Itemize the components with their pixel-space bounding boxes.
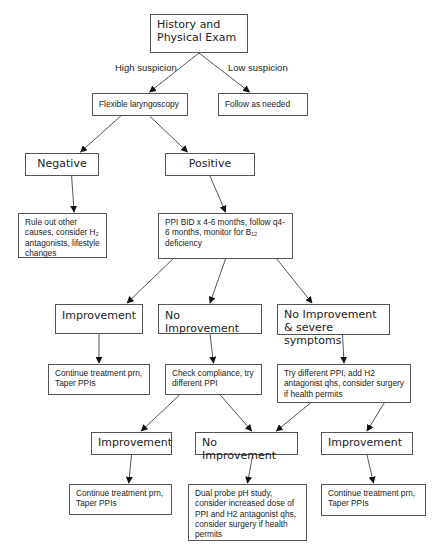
arrow-ppi-to-improvement-1 xyxy=(127,259,173,303)
node-history-physical-exam: History and Physical Exam xyxy=(150,14,248,53)
node-improvement: Improvement xyxy=(321,432,413,455)
edges-layer xyxy=(0,0,444,550)
arrow-laryngoscopy-to-positive xyxy=(150,116,188,152)
arrow-try-different-to-improvement-3 xyxy=(367,403,384,431)
arrow-no-improvement-severe-to-try-different xyxy=(343,335,344,363)
node-no-improvement: No Improvement xyxy=(158,304,262,334)
node-rule-out-other-causes: Rule out other causes, consider H₂ antag… xyxy=(18,213,107,258)
arrow-no-improvement-1-to-check-compliance xyxy=(210,334,214,363)
node-no-improvement-severe: No Improvement & severe symptoms xyxy=(277,304,390,335)
node-improvement: Improvement xyxy=(55,304,143,334)
arrow-ppi-to-no-improvement-severe xyxy=(277,259,312,303)
node-positive: Positive xyxy=(165,153,255,176)
arrow-ppi-to-no-improvement-1 xyxy=(210,259,226,303)
arrow-laryngoscopy-to-negative xyxy=(81,116,121,152)
arrow-check-compliance-to-improvement-2 xyxy=(141,395,179,431)
node-continue-treatment: Continue treatment prn, Taper PPIs xyxy=(69,484,172,515)
node-no-improvement: No Improvement xyxy=(195,432,298,455)
node-flexible-laryngoscopy: Flexible laryngoscopy xyxy=(92,93,188,116)
node-dual-probe-ph-study: Dual probe pH study, consider increased … xyxy=(188,484,307,541)
edge-label-low-suspicion: Low suspicion xyxy=(228,62,288,73)
node-follow-as-needed: Follow as needed xyxy=(218,93,308,116)
arrow-improvement-2-to-continue-2 xyxy=(129,455,132,483)
arrow-improvement-3-to-continue-3 xyxy=(367,455,374,483)
arrow-try-different-to-no-improvement-2 xyxy=(276,403,310,431)
node-improvement: Improvement xyxy=(91,432,172,455)
node-continue-treatment: Continue treatment prn, Taper PPIs xyxy=(48,364,150,395)
node-ppi-bid: PPI BID x 4-6 months, follow q4-6 months… xyxy=(158,213,293,259)
arrow-positive-to-ppi xyxy=(210,176,226,212)
edge-label-high-suspicion: High suspicion xyxy=(115,62,177,73)
arrow-negative-to-rule-out xyxy=(72,176,74,212)
node-continue-treatment: Continue treatment prn, Taper PPIs xyxy=(321,484,426,516)
node-try-different-ppi: Try different PPI, add H2 antagonist qhs… xyxy=(277,364,411,403)
node-negative: Negative xyxy=(25,153,99,176)
arrow-check-compliance-to-no-improvement-2 xyxy=(220,395,251,431)
node-check-compliance: Check compliance, try different PPI xyxy=(165,364,262,395)
